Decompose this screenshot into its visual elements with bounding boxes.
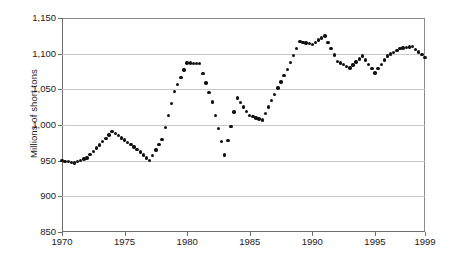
x-tick-label: 1999 bbox=[402, 237, 448, 247]
coal-production-chart: Millions of short tons 8509009501,0001,0… bbox=[0, 0, 449, 265]
x-tick-label: 1975 bbox=[102, 237, 148, 247]
x-tick-label: 1990 bbox=[289, 237, 335, 247]
x-tick-label: 1970 bbox=[39, 237, 85, 247]
x-tick-label: 1985 bbox=[227, 237, 273, 247]
x-tick-label: 1995 bbox=[352, 237, 398, 247]
x-tick-label: 1980 bbox=[164, 237, 210, 247]
x-axis-tick-labels: 1970197519801985199019951999 bbox=[0, 0, 449, 265]
